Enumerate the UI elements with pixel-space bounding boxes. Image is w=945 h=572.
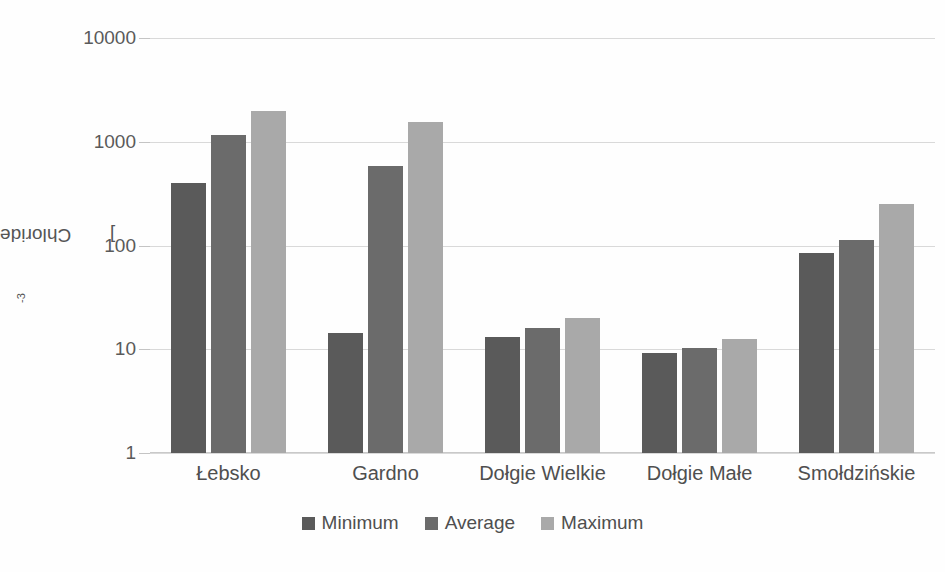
legend-swatch-icon — [302, 517, 315, 530]
y-tick-mark — [139, 349, 150, 350]
plot-area: 100001000100101 — [150, 38, 935, 453]
y-tick-mark — [139, 453, 150, 454]
x-category-label: Łebsko — [196, 462, 261, 485]
chart-legend: MinimumAverageMaximum — [0, 512, 945, 534]
y-axis-title: Chloride [mgdm-3] — [6, 0, 46, 470]
y-tick-label: 100 — [104, 235, 136, 257]
legend-swatch-icon — [541, 517, 554, 530]
y-axis-title-text: Chloride [mgdm — [0, 224, 72, 246]
y-tick-label: 1000 — [94, 131, 136, 153]
chloride-bar-chart: Chloride [mgdm-3] 100001000100101 Łebsko… — [0, 0, 945, 572]
legend-swatch-icon — [425, 517, 438, 530]
y-axis-title-exponent: -3 — [15, 293, 27, 303]
y-tick-label: 1 — [125, 442, 136, 464]
legend-item-maximum[interactable]: Maximum — [541, 512, 643, 534]
legend-label: Maximum — [561, 512, 643, 534]
bar-group — [150, 38, 935, 453]
x-category-label: Dołgie Wielkie — [479, 462, 606, 485]
legend-label: Average — [445, 512, 515, 534]
y-axis-title-bracket: ] — [0, 224, 116, 246]
y-tick-mark — [139, 38, 150, 39]
y-tick-label: 10 — [115, 338, 136, 360]
y-tick-mark — [139, 142, 150, 143]
x-category-label: Gardno — [352, 462, 419, 485]
bar-minimum-4[interactable] — [799, 253, 834, 453]
y-tick-label: 10000 — [83, 27, 136, 49]
x-category-label: Smołdzińskie — [798, 462, 916, 485]
bar-average-4[interactable] — [839, 240, 874, 453]
legend-item-average[interactable]: Average — [425, 512, 515, 534]
x-category-label: Dołgie Małe — [647, 462, 753, 485]
y-tick-mark — [139, 246, 150, 247]
x-axis-category-labels: ŁebskoGardnoDołgie WielkieDołgie MałeSmo… — [150, 462, 935, 492]
bar-maximum-4[interactable] — [879, 204, 914, 453]
legend-label: Minimum — [322, 512, 399, 534]
legend-item-minimum[interactable]: Minimum — [302, 512, 399, 534]
y-gridline — [150, 453, 935, 454]
